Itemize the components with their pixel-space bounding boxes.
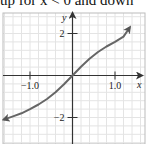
data-series xyxy=(4,27,130,119)
curve-line xyxy=(4,27,130,119)
grid-lines xyxy=(3,13,145,144)
x-tick-label: 1.0 xyxy=(109,80,122,91)
function-graph: xy−1.01.02−2 xyxy=(0,0,148,144)
x-axis-label: x xyxy=(136,79,142,90)
y-tick-label: −2 xyxy=(54,112,65,123)
y-tick-label: 2 xyxy=(60,28,65,39)
y-axis-label: y xyxy=(61,12,67,23)
x-tick-label: −1.0 xyxy=(21,80,39,91)
axes: xy−1.01.02−2 xyxy=(3,12,142,144)
